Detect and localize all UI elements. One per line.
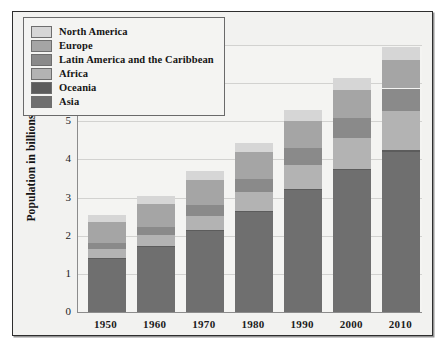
bar-segment[interactable] [333, 78, 371, 90]
y-axis-tick-label: 4 [49, 153, 71, 164]
bar-segment[interactable] [333, 170, 371, 312]
bar-segment[interactable] [284, 121, 322, 148]
legend: North AmericaEuropeLatin America and the… [23, 17, 225, 116]
legend-item-label: North America [59, 26, 128, 37]
bar-segment[interactable] [235, 211, 273, 212]
y-axis-tick-label: 3 [49, 192, 71, 203]
bar-segment[interactable] [333, 169, 371, 170]
bar-segment[interactable] [235, 211, 273, 312]
bar-segment[interactable] [186, 230, 224, 231]
figure: Population in billions 01234567 19501960… [0, 0, 445, 348]
legend-swatch-icon [31, 54, 52, 66]
legend-item[interactable]: Europe [31, 39, 214, 52]
bar-segment[interactable] [382, 111, 420, 150]
bar-segment[interactable] [186, 180, 224, 205]
legend-item-label: Africa [59, 68, 88, 79]
legend-item[interactable]: North America [31, 25, 214, 38]
bar-segment[interactable] [333, 118, 371, 138]
bar-segment[interactable] [333, 138, 371, 169]
bar-segment[interactable] [88, 258, 126, 259]
legend-swatch-icon [31, 82, 52, 94]
bar-segment[interactable] [284, 148, 322, 165]
legend-item[interactable]: Oceania [31, 81, 214, 94]
legend-swatch-icon [31, 96, 52, 108]
y-axis-tick-label: 0 [49, 306, 71, 317]
y-axis-tick-label: 5 [49, 115, 71, 126]
bar-segment[interactable] [235, 192, 273, 210]
bar-segment[interactable] [382, 89, 420, 112]
bar-segment[interactable] [186, 205, 224, 216]
legend-item[interactable]: Latin America and the Caribbean [31, 53, 214, 66]
bar-segment[interactable] [137, 246, 175, 247]
bar-segment[interactable] [186, 171, 224, 180]
bar-segment[interactable] [284, 189, 322, 190]
legend-item-label: Asia [59, 96, 79, 107]
legend-item-label: Europe [59, 40, 93, 51]
bar-segment[interactable] [88, 243, 126, 249]
legend-item-label: Oceania [59, 82, 96, 93]
legend-item-label: Latin America and the Caribbean [59, 54, 214, 65]
legend-item[interactable]: Africa [31, 67, 214, 80]
legend-swatch-icon [31, 26, 52, 38]
bar-segment[interactable] [137, 204, 175, 227]
bar-segment[interactable] [137, 227, 175, 235]
bar-segment[interactable] [88, 222, 126, 243]
bar-segment[interactable] [333, 90, 371, 118]
bar-segment[interactable] [88, 259, 126, 312]
bar-segment[interactable] [382, 150, 420, 152]
bar-segment[interactable] [235, 179, 273, 193]
chart-frame: Population in billions 01234567 19501960… [12, 11, 433, 336]
bar-segment[interactable] [88, 215, 126, 221]
bar-segment[interactable] [284, 190, 322, 312]
legend-item[interactable]: Asia [31, 95, 214, 108]
bar-segment[interactable] [235, 152, 273, 178]
bar-segment[interactable] [137, 246, 175, 312]
bar-segment[interactable] [284, 165, 322, 189]
bar-segment[interactable] [284, 110, 322, 121]
bar-segment[interactable] [88, 249, 126, 258]
y-axis-tick-label: 1 [49, 268, 71, 279]
bar-segment[interactable] [137, 235, 175, 246]
bar-segment[interactable] [382, 47, 420, 60]
bar-segment[interactable] [137, 196, 175, 204]
bar-segment[interactable] [186, 230, 224, 312]
legend-swatch-icon [31, 68, 52, 80]
y-axis-tick-label: 2 [49, 230, 71, 241]
x-axis-tick-label: 2010 [371, 318, 429, 330]
legend-swatch-icon [31, 40, 52, 52]
bar-segment[interactable] [186, 216, 224, 230]
bar-segment[interactable] [382, 152, 420, 312]
bar-segment[interactable] [382, 60, 420, 88]
bar-segment[interactable] [235, 143, 273, 153]
